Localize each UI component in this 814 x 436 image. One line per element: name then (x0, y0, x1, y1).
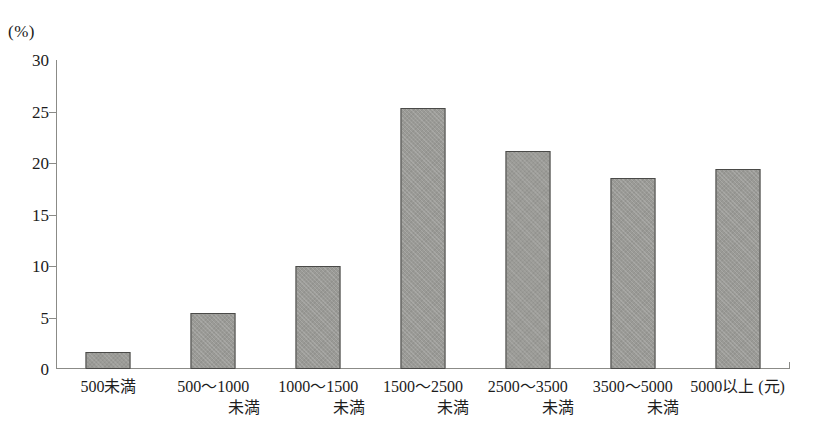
category-label-line1: 500未満 (56, 376, 161, 397)
y-tick-mark (49, 163, 56, 164)
y-tick-label: 10 (32, 258, 49, 275)
category-label-line2: 未満 (580, 397, 685, 418)
bar-slot (580, 60, 685, 369)
category-label: 1000〜1500未満 (266, 376, 371, 418)
category-label-line1: 2500〜3500 (475, 376, 580, 397)
y-tick-mark (49, 318, 56, 319)
category-label: 500〜1000未満 (161, 376, 266, 418)
bar-slot (161, 60, 266, 369)
category-label-line2: 未満 (266, 397, 371, 418)
bar (191, 313, 236, 369)
category-label: 500未満 (56, 376, 161, 397)
category-label: 3500〜5000未満 (580, 376, 685, 418)
bar (610, 178, 655, 369)
y-tick-label: 25 (32, 103, 49, 120)
category-label-line1: 3500〜5000 (580, 376, 685, 397)
bar-slot (56, 60, 161, 369)
bar (505, 151, 550, 369)
category-label-line2: 未満 (371, 397, 476, 418)
bar-slot (685, 60, 790, 369)
bar (400, 108, 445, 369)
category-label: 2500〜3500未満 (475, 376, 580, 418)
bar-slot (266, 60, 371, 369)
category-label: 1500〜2500未満 (371, 376, 476, 418)
y-tick-label: 15 (32, 206, 49, 223)
bar-chart: (%) 051015202530 500未満500〜1000未満1000〜150… (0, 0, 814, 436)
bar-slot (371, 60, 476, 369)
bar (715, 169, 760, 369)
x-axis-category-labels: 500未満500〜1000未満1000〜1500未満1500〜2500未満250… (56, 376, 790, 432)
y-axis-unit-label: (%) (8, 22, 35, 42)
y-tick-mark (49, 266, 56, 267)
category-label-line2: 未満 (161, 397, 266, 418)
y-tick-mark (49, 112, 56, 113)
bar-series (56, 60, 790, 369)
category-label-line1: 1500〜2500 (371, 376, 476, 397)
plot-area: 051015202530 (56, 60, 790, 369)
y-tick-mark (49, 215, 56, 216)
y-tick-label: 20 (32, 155, 49, 172)
bar (296, 266, 341, 369)
y-tick-label: 5 (41, 309, 50, 326)
bar (86, 352, 131, 370)
y-tick-label: 30 (32, 52, 49, 69)
category-label-line1: 500〜1000 (161, 376, 266, 397)
category-label: 5000以上 (元) (685, 376, 790, 397)
bar-slot (475, 60, 580, 369)
category-label-line1: 5000以上 (元) (685, 376, 790, 397)
y-tick-label: 0 (41, 361, 50, 378)
category-label-line2: 未満 (475, 397, 580, 418)
category-label-line1: 1000〜1500 (266, 376, 371, 397)
